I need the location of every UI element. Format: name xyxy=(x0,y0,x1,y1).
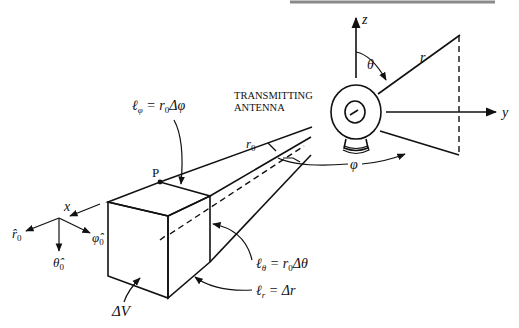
phi-hat-label: φ̂0 xyxy=(92,230,104,247)
x-axis-label: x xyxy=(63,199,71,214)
z-axis-label: z xyxy=(361,12,368,27)
point-p-marker xyxy=(158,180,163,185)
r-label: r xyxy=(420,50,426,65)
unit-vector-triad: x r̂0 θ̂0 φ̂0 xyxy=(12,199,104,272)
theta-angle: θ xyxy=(356,52,386,80)
l-theta-leader xyxy=(213,224,252,260)
y-axis-label: y xyxy=(500,105,509,120)
transmitting-antenna xyxy=(331,85,381,154)
l-r-leader xyxy=(195,277,252,290)
l-r-label: ℓr = Δr xyxy=(256,283,296,300)
antenna-volume-diagram: z y r θ TRANSMITTING ANTENNA φ xyxy=(0,0,519,328)
phi-label: φ xyxy=(350,157,358,172)
point-p-label: P xyxy=(152,165,159,180)
antenna-label-line2: ANTENNA xyxy=(234,102,285,113)
delta-v-leader xyxy=(124,278,140,302)
y-axis: y xyxy=(386,105,509,120)
x-axis-arrow xyxy=(70,204,100,216)
volume-element-cube xyxy=(108,180,210,298)
l-theta-label: ℓθ = r0Δθ xyxy=(256,256,308,273)
r-vector: r xyxy=(378,35,460,155)
r0-label: r0 xyxy=(246,136,256,153)
r-hat-label: r̂0 xyxy=(12,226,22,243)
theta-label: θ xyxy=(367,57,374,72)
theta-hat-label: θ̂0 xyxy=(53,255,64,272)
antenna-label-line1: TRANSMITTING xyxy=(234,90,313,101)
beam-lines xyxy=(160,127,312,262)
delta-v-label: ΔV xyxy=(111,303,132,319)
l-phi-label: ℓφ = r0Δφ xyxy=(132,98,185,115)
